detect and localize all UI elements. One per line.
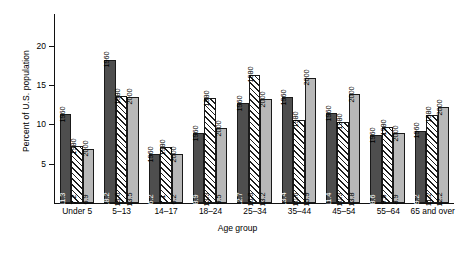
bar-value-label: 10.3 (336, 192, 343, 206)
bar-1960[interactable]: 19608.6 (370, 135, 382, 203)
bar-value-label: 8.9 (191, 194, 198, 204)
bar-year-label: 1980 (247, 67, 254, 83)
bar-value-label: 13.2 (259, 192, 266, 206)
bar-year-label: 1980 (424, 107, 431, 123)
y-axis-tick (49, 46, 54, 47)
y-axis-tick-label: 20 (37, 41, 46, 50)
x-axis-category-label: 18–24 (188, 206, 232, 216)
bar-year-label: 1960 (191, 125, 198, 141)
bar-year-label: 2000 (214, 120, 221, 136)
bar-groups: 196011.319807.220006.9196018.2198013.620… (55, 14, 454, 203)
bar-year-label: 1980 (158, 139, 165, 155)
bar-group: 19608.619809.620008.9 (365, 14, 409, 203)
bar-1980[interactable]: 198010.6 (293, 120, 305, 203)
bar-value-label: 11.2 (424, 192, 431, 205)
x-axis-category-label: 5–13 (99, 206, 143, 216)
bar-year-label: 2000 (259, 91, 266, 107)
bar-year-label: 1960 (413, 123, 420, 139)
bar-year-label: 1960 (369, 127, 376, 143)
bar-group: 196013.4198010.6200015.9 (277, 14, 321, 203)
bar-value-label: 6.2 (147, 194, 154, 204)
bar-2000[interactable]: 20008.9 (393, 133, 405, 203)
bar-2000[interactable]: 20006.9 (83, 149, 95, 203)
bar-2000[interactable]: 200013.8 (349, 94, 361, 203)
bar-value-label: 11.3 (58, 192, 65, 205)
x-axis-category-label: 55–64 (366, 206, 410, 216)
bar-year-label: 1980 (291, 112, 298, 128)
bar-value-label: 7.1 (158, 194, 165, 204)
bar-1960[interactable]: 196011.3 (60, 114, 72, 203)
y-axis-title: Percent of U.S. population (21, 21, 31, 181)
bar-value-label: 7.2 (70, 194, 77, 204)
y-axis-tick (49, 164, 54, 165)
x-axis-category-label: 25–34 (233, 206, 277, 216)
bar-year-label: 1980 (380, 119, 387, 135)
bar-year-label: 2000 (170, 146, 177, 162)
bar-year-label: 1980 (70, 138, 77, 154)
bar-1980[interactable]: 198011.2 (426, 115, 438, 203)
bar-group: 196011.4198010.3200013.8 (321, 14, 365, 203)
bar-value-label: 12.7 (236, 192, 243, 206)
bar-value-label: 13.4 (280, 192, 287, 206)
bar-2000[interactable]: 200015.9 (305, 78, 317, 203)
bar-value-label: 10.6 (291, 192, 298, 206)
y-axis-tick-label: 5 (41, 159, 46, 168)
bar-value-label: 11.4 (324, 192, 331, 205)
bar-2000[interactable]: 200013.5 (127, 97, 139, 203)
bar-year-label: 1980 (336, 114, 343, 130)
bar-group: 196012.7198016.3200013.2 (232, 14, 276, 203)
bar-year-label: 1980 (203, 90, 210, 106)
bar-group: 19606.219807.120006.2 (144, 14, 188, 203)
x-axis-category-label: 65 and over (411, 206, 455, 216)
x-axis-category-label: 45–54 (322, 206, 366, 216)
bar-1980[interactable]: 198010.3 (337, 122, 349, 203)
bar-year-label: 1960 (280, 89, 287, 105)
bar-value-label: 13.8 (347, 192, 354, 206)
bar-value-label: 8.9 (392, 194, 399, 204)
y-axis-tick (49, 85, 54, 86)
bar-year-label: 2000 (126, 89, 133, 105)
chart-figure: Percent of U.S. population 5101520 19601… (0, 0, 475, 266)
bar-value-label: 13.6 (114, 192, 121, 206)
bar-year-label: 2000 (436, 99, 443, 115)
plot-area: 5101520 196011.319807.220006.9196018.219… (54, 14, 454, 203)
bar-group: 19608.9198013.320009.5 (188, 14, 232, 203)
bar-year-label: 1960 (147, 146, 154, 162)
y-axis-tick-label: 10 (37, 120, 46, 129)
bar-value-label: 13.5 (126, 192, 133, 206)
bar-year-label: 2000 (392, 125, 399, 141)
bar-value-label: 9.5 (214, 194, 221, 204)
bar-1980[interactable]: 198013.3 (204, 98, 216, 203)
bar-group: 19609.2198011.2200012.2 (410, 14, 454, 203)
bar-2000[interactable]: 200012.2 (438, 107, 450, 203)
bar-value-label: 15.9 (303, 192, 310, 206)
y-axis-tick-label: 15 (37, 81, 46, 90)
bar-1960[interactable]: 196012.7 (237, 103, 249, 203)
x-axis-category-label: 35–44 (277, 206, 321, 216)
y-axis-tick (49, 124, 54, 125)
bar-year-label: 1960 (103, 52, 110, 68)
x-axis-category-label: Under 5 (55, 206, 99, 216)
bar-value-label: 13.3 (203, 192, 210, 206)
bar-value-label: 12.2 (436, 192, 443, 206)
bar-value-label: 18.2 (103, 192, 110, 206)
bar-value-label: 6.9 (81, 194, 88, 204)
x-axis-title: Age group (0, 223, 475, 233)
bar-group: 196011.319807.220006.9 (55, 14, 99, 203)
bar-year-label: 1960 (58, 106, 65, 122)
bar-year-label: 1960 (236, 95, 243, 111)
bar-year-label: 1960 (324, 105, 331, 121)
bar-value-label: 6.2 (170, 194, 177, 204)
bar-year-label: 2000 (81, 141, 88, 157)
bar-value-label: 16.3 (247, 192, 254, 206)
bar-1960[interactable]: 196018.2 (104, 60, 116, 203)
bar-value-label: 9.6 (380, 194, 387, 204)
bar-2000[interactable]: 20006.2 (172, 154, 184, 203)
bar-2000[interactable]: 20009.5 (216, 128, 228, 203)
bar-year-label: 2000 (347, 86, 354, 102)
bar-2000[interactable]: 200013.2 (260, 99, 272, 203)
x-axis-category-label: 14–17 (144, 206, 188, 216)
bar-1980[interactable]: 198013.6 (116, 96, 128, 203)
bar-year-label: 2000 (303, 70, 310, 86)
bar-group: 196018.2198013.6200013.5 (99, 14, 143, 203)
